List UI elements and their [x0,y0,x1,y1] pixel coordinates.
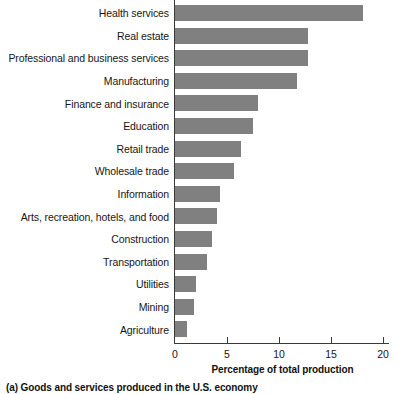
figure-caption: (a) Goods and services produced in the U… [6,382,258,393]
x-tick-mark [331,337,332,343]
x-tick-label: 10 [273,348,285,360]
x-tick-mark [383,337,384,343]
x-tick-label: 0 [172,348,178,360]
x-tick-mark [279,337,280,343]
x-tick-label: 15 [325,348,337,360]
x-tick-label: 20 [377,348,389,360]
x-axis-ticks: 05101520 [0,0,399,394]
x-tick-mark [227,337,228,343]
x-axis-title: Percentage of total production [175,364,390,375]
bar-chart-figure: Health servicesReal estateProfessional a… [0,0,399,394]
x-tick-label: 5 [224,348,230,360]
